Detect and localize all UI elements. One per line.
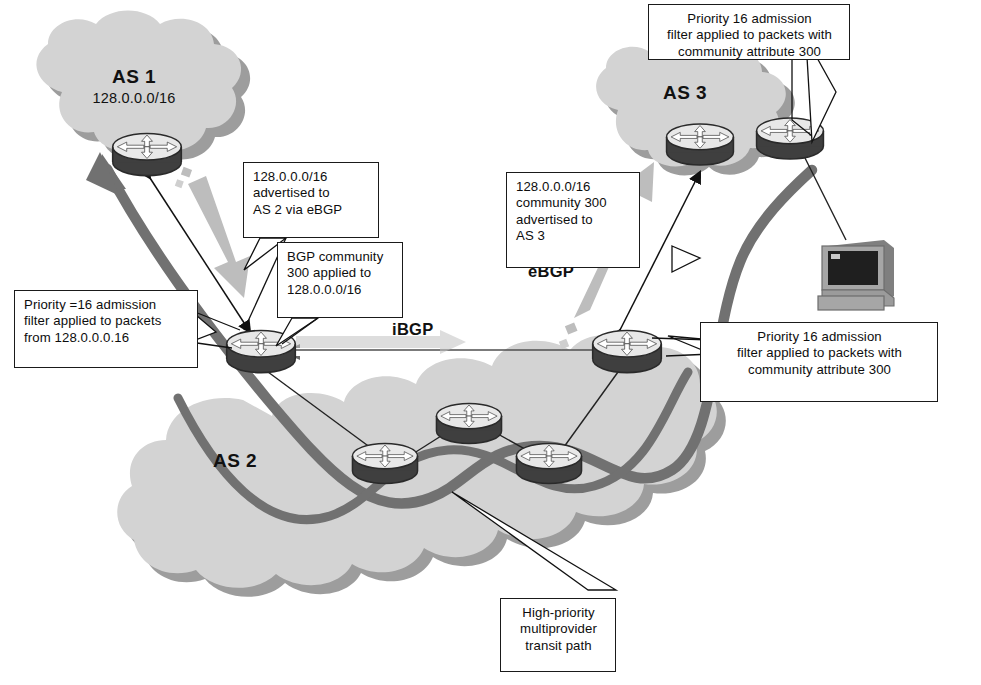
callout-advertised-as3-line-3: advertised to <box>516 212 631 228</box>
callout-as2-egress-filter-line-3: community attribute 300 <box>710 362 929 378</box>
callout-transit-path-line-3: transit path <box>510 638 607 654</box>
callout-as2-egress-filter: Priority 16 admission filter applied to … <box>700 322 938 402</box>
as3-workstation-link <box>800 148 846 240</box>
router-as2-core-left[interactable] <box>352 444 417 484</box>
callout-community-applied: BGP community 300 applied to 128.0.0.0/1… <box>277 242 403 318</box>
callout-advertised-as3-line-1: 128.0.0.0/16 <box>516 179 631 195</box>
router-as2-right-border[interactable] <box>593 331 662 373</box>
callout-as2-egress-filter-line-1: Priority 16 admission <box>710 329 929 345</box>
ibgp-label: iBGP <box>392 320 434 339</box>
callout-advertised-as3: 128.0.0.0/16 community 300 advertised to… <box>506 172 640 268</box>
router-as1-border[interactable] <box>113 134 182 176</box>
callout-community-applied-line-1: BGP community <box>287 249 394 265</box>
callout-advertised-as2-line-3: AS 2 via eBGP <box>253 202 370 218</box>
as2-name: AS 2 <box>180 450 290 472</box>
callout-advertised-as3-line-4: AS 3 <box>516 228 631 244</box>
callout-advertised-as2-line-2: advertised to <box>253 185 370 201</box>
callout-as3-filter-line-1: Priority 16 admission <box>658 11 841 27</box>
callout-community-applied-line-2: 300 applied to <box>287 265 394 281</box>
as1-cloud-label: AS 1 128.0.0.0/16 <box>74 66 194 106</box>
callout-transit-path-line-2: multiprovider <box>510 621 607 637</box>
router-as2-core-top[interactable] <box>436 404 501 444</box>
as2-cloud-label: AS 2 <box>180 450 290 472</box>
callout-as1-filter: Priority =16 admission filter applied to… <box>14 290 198 368</box>
diagram-canvas: AS 1 128.0.0.0/16 AS 2 AS 3 iBGP eBGP Pr… <box>0 0 981 685</box>
callout-as2-egress-filter-line-2: filter applied to packets with <box>710 345 929 361</box>
callout-advertised-as2: 128.0.0.0/16 advertised to AS 2 via eBGP <box>243 162 379 238</box>
callout-as1-filter-line-3: from 128.0.0.0.16 <box>24 330 189 346</box>
callout-as3-filter-line-3: community attribute 300 <box>658 44 841 60</box>
callout-advertised-as2-line-1: 128.0.0.0/16 <box>253 169 370 185</box>
as1-prefix: 128.0.0.0/16 <box>74 90 194 106</box>
callout-community-applied-line-3: 128.0.0.0/16 <box>287 282 394 298</box>
callout-as3-filter-line-2: filter applied to packets with <box>658 27 841 43</box>
callout-as3-filter: Priority 16 admission filter applied to … <box>648 4 850 60</box>
computer-terminal-icon <box>818 240 894 310</box>
callout-as1-filter-line-1: Priority =16 admission <box>24 297 189 313</box>
callout-advertised-as3-line-2: community 300 <box>516 195 631 211</box>
as3-cloud-label: AS 3 <box>630 82 740 104</box>
callout-transit-path: High-priority multiprovider transit path <box>500 598 616 672</box>
router-as2-core-right[interactable] <box>516 444 581 484</box>
router-as3-left[interactable] <box>667 124 734 165</box>
callout-as1-filter-line-2: filter applied to packets <box>24 313 189 329</box>
callout-transit-path-line-1: High-priority <box>510 605 607 621</box>
as3-name: AS 3 <box>630 82 740 104</box>
as1-name: AS 1 <box>74 66 194 88</box>
